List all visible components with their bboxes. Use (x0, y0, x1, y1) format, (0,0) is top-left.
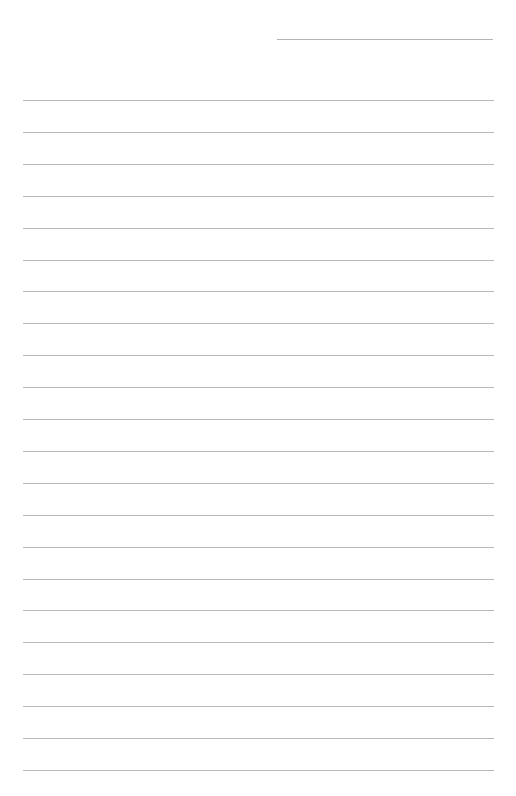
ruled-line (23, 706, 494, 707)
ruled-line (23, 515, 494, 516)
ruled-line (23, 323, 494, 324)
ruled-line (23, 387, 494, 388)
ruled-line (23, 738, 494, 739)
ruled-line (23, 483, 494, 484)
ruled-line (23, 419, 494, 420)
ruled-line (23, 451, 494, 452)
ruled-line (23, 770, 494, 771)
lined-paper-page (0, 0, 516, 796)
ruled-line (23, 164, 494, 165)
ruled-line (23, 642, 494, 643)
header-date-line (277, 39, 493, 40)
ruled-line (23, 100, 494, 101)
ruled-line (23, 610, 494, 611)
ruled-line (23, 196, 494, 197)
ruled-line (23, 579, 494, 580)
ruled-line (23, 355, 494, 356)
ruled-line (23, 260, 494, 261)
ruled-line (23, 228, 494, 229)
ruled-line (23, 674, 494, 675)
ruled-line (23, 132, 494, 133)
ruled-line (23, 291, 494, 292)
ruled-line (23, 547, 494, 548)
